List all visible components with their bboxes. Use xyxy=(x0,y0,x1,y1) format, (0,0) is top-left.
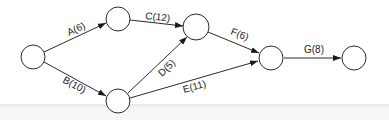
edge-label-e: E(11) xyxy=(182,78,208,95)
node-4 xyxy=(183,14,209,40)
edge-label-c: C(12) xyxy=(145,10,171,24)
edge-label-b: B(10) xyxy=(61,74,88,95)
edge-label-f: F(6) xyxy=(229,26,250,43)
edge-label-d: D(5) xyxy=(156,57,178,78)
node-5 xyxy=(259,46,283,70)
node-6 xyxy=(342,46,366,70)
node-3 xyxy=(106,89,130,113)
node-2 xyxy=(106,7,130,31)
edge-e xyxy=(130,61,258,98)
edge-label-a: A(6) xyxy=(65,20,87,38)
edge-label-g: G(8) xyxy=(304,44,324,55)
network-diagram: A(6) B(10) C(12) D(5) E(11) F(6) G(8) xyxy=(0,0,389,120)
node-1 xyxy=(21,45,45,69)
